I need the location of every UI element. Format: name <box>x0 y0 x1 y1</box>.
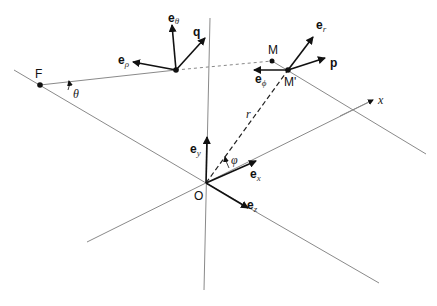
label-f: F <box>35 67 42 81</box>
label-e-theta: eθ <box>168 11 180 26</box>
e-theta-vector <box>172 25 176 70</box>
e-z-vector <box>206 183 248 208</box>
line-f-to-origin <box>14 70 206 183</box>
label-p: p <box>330 56 337 70</box>
radius-r-line <box>206 70 288 183</box>
e-r-vector <box>288 37 313 70</box>
label-m-prime: M' <box>284 75 296 89</box>
dashed-line-p-to-m <box>176 61 272 70</box>
label-m: M <box>268 43 278 57</box>
label-x-axis: x <box>377 93 384 107</box>
label-e-rho: eρ <box>118 53 130 69</box>
label-e-phi: eϕ <box>255 72 267 88</box>
label-theta-angle: θ <box>73 87 79 101</box>
point-m-prime <box>285 67 291 73</box>
x-axis-arrow <box>340 100 373 116</box>
point-m <box>270 59 275 64</box>
label-e-y: ey <box>190 142 201 158</box>
label-phi-angle: φ <box>231 153 238 167</box>
q-vector <box>176 38 205 70</box>
label-o: O <box>194 189 203 203</box>
line-f-to-p <box>40 70 176 85</box>
e-y-vector <box>206 137 207 183</box>
label-r: r <box>246 107 251 121</box>
point-p <box>173 67 179 73</box>
e-rho-vector <box>133 62 176 70</box>
x-axis-line <box>87 100 373 242</box>
geometry-diagram: F M M' O eθ q eρ er p eϕ ey ex ez θ φ r … <box>0 0 437 306</box>
label-e-x: ex <box>250 167 261 183</box>
p-vector <box>288 58 325 70</box>
label-e-r: er <box>316 18 327 34</box>
label-e-z: ez <box>247 198 258 214</box>
point-f <box>37 82 43 88</box>
phi-angle-arrow <box>225 157 229 168</box>
label-q: q <box>193 25 200 39</box>
